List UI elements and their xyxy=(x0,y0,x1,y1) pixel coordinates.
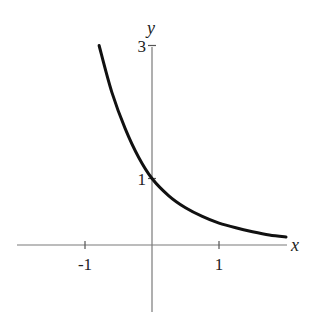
y-tick-label: 1 xyxy=(138,170,147,189)
x-tick-label: -1 xyxy=(78,255,92,274)
x-axis-label: x xyxy=(290,235,299,255)
y-ticks: 13 xyxy=(138,37,157,189)
x-tick-label: 1 xyxy=(215,255,224,274)
y-tick-label: 3 xyxy=(138,37,147,56)
exponential-decay-curve xyxy=(99,46,286,238)
y-axis-label: y xyxy=(145,18,155,38)
x-ticks: -11 xyxy=(78,241,223,274)
function-graph: -11 13 x y xyxy=(0,0,313,319)
